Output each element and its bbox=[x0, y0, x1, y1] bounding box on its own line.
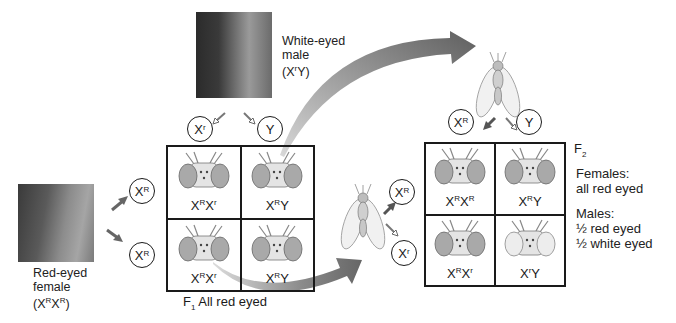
genotype-label: XRXR bbox=[446, 192, 475, 209]
fly-head-red-eye-icon bbox=[432, 218, 488, 262]
fly-head-white-eye-icon bbox=[502, 218, 558, 262]
f2-cell-xry: XRY bbox=[495, 143, 565, 215]
f1-female-gamete-xr-1: XR bbox=[129, 178, 155, 204]
female-parent-label: Red-eyed female (XRXR) bbox=[33, 266, 87, 311]
f2-parent-female-fly-icon bbox=[336, 184, 389, 252]
genotype-label: XRXr bbox=[447, 264, 473, 281]
f1-male-gamete-y: Y bbox=[257, 116, 283, 142]
genotype-label: XRY bbox=[266, 269, 289, 286]
genotype-label: XRY bbox=[518, 192, 541, 209]
genotype-label: XRXr bbox=[191, 196, 217, 213]
fly-head-red-eye-icon bbox=[432, 146, 488, 190]
fly-head-red-eye-icon bbox=[176, 223, 232, 267]
f2-female-gamete-xr-recessive: Xr bbox=[391, 240, 417, 266]
f2-parent-male-fly-icon bbox=[471, 52, 524, 120]
f2-punnett-square: XRXR XRY XRXr XrY bbox=[424, 142, 566, 287]
female-gamete-arrow-up bbox=[112, 196, 128, 210]
male-gamete-arrow-right bbox=[244, 113, 255, 124]
f2-male-gamete-xr: XR bbox=[448, 109, 474, 135]
f2-male-gamete-y: Y bbox=[516, 109, 542, 135]
f2-female-gamete-xr: XR bbox=[389, 179, 415, 205]
f2-males-summary: Males: ½ red eyed ½ white eyed bbox=[576, 206, 653, 251]
fly-head-red-eye-icon bbox=[249, 150, 305, 194]
fly-head-red-eye-icon bbox=[176, 150, 232, 194]
male-genotype: (XrY) bbox=[282, 62, 345, 79]
female-gamete-arrow-down bbox=[107, 230, 123, 242]
f2-male-gamete-arrow-left bbox=[483, 118, 495, 130]
f2-cell-xrxr: XRXR bbox=[425, 143, 495, 215]
female-genotype: (XRXR) bbox=[33, 294, 87, 311]
fly-head-red-eye-icon bbox=[249, 223, 305, 267]
f1-punnett-square: XRXr XRY XRXr XRY bbox=[166, 145, 315, 292]
f1-cell-xry: XRY bbox=[241, 146, 315, 219]
fly-head-red-eye-icon bbox=[502, 146, 558, 190]
genotype-label: XrY bbox=[520, 264, 540, 281]
male-parent-label: White-eyed male (XrY) bbox=[282, 34, 345, 79]
f2-cell-xry-white: XrY bbox=[495, 215, 565, 287]
white-eyed-male-photo bbox=[196, 12, 272, 98]
f2-title: F2 bbox=[574, 141, 586, 159]
f2-female-gamete-arrow-up bbox=[384, 202, 396, 214]
f2-females-summary: Females: all red eyed bbox=[576, 166, 643, 196]
genotype-label: XRXr bbox=[191, 269, 217, 286]
f1-cell-xrxr: XRXr bbox=[167, 219, 241, 292]
f1-female-gamete-xr-2: XR bbox=[129, 242, 155, 268]
red-eyed-female-photo bbox=[18, 184, 94, 262]
f1-male-gamete-xr: Xr bbox=[187, 116, 213, 142]
f1-caption: F1 All red eyed bbox=[183, 294, 267, 312]
genotype-label: XRY bbox=[266, 196, 289, 213]
f1-cell-xrxr: XRXr bbox=[167, 146, 241, 219]
f2-female-gamete-arrow-down bbox=[386, 224, 398, 236]
f1-cell-xry: XRY bbox=[241, 219, 315, 292]
male-gamete-arrow-left bbox=[213, 113, 225, 124]
f2-cell-xrxr-carrier: XRXr bbox=[425, 215, 495, 287]
